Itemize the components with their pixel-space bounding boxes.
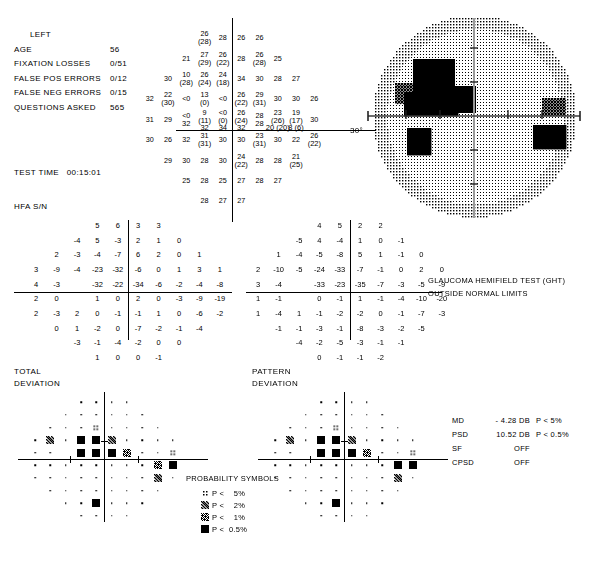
threshold-value: -1: [398, 338, 405, 347]
grid-value-cell: -34: [133, 281, 144, 289]
horizontal-axis: [258, 459, 448, 460]
probability-plot-point: [65, 502, 67, 504]
symbol-normal-dot: [50, 427, 52, 429]
grid-value-cell: -1: [398, 251, 405, 259]
grid-value-cell: 0: [379, 237, 383, 245]
grid-value-cell: 1: [157, 310, 161, 318]
probability-plot-point: [290, 452, 292, 454]
symbol-normal-dot: [382, 452, 384, 454]
symbol-normal-dot: [366, 414, 368, 416]
grid-value-cell: -8: [336, 251, 343, 259]
symbol-normal-dot: [320, 427, 322, 429]
threshold-value: -34: [133, 280, 144, 289]
grid-value-cell: 1: [95, 295, 99, 303]
threshold-value: 2: [157, 250, 161, 259]
grid-value-cell: 26: [310, 95, 318, 103]
threshold-value: -1: [398, 236, 405, 245]
threshold-value: 28: [255, 156, 263, 165]
vertical-axis: [344, 392, 345, 522]
probability-plot-point: [348, 449, 356, 457]
threshold-value: -8: [216, 280, 223, 289]
symbol-normal-dot: [290, 465, 292, 467]
grid-value-cell: -4: [296, 251, 303, 259]
probability-plot-point: [126, 414, 128, 416]
threshold-value: 1: [95, 353, 99, 362]
threshold-value: -7: [377, 280, 384, 289]
grid-value-cell: 23(31): [253, 132, 266, 148]
grid-value-cell: 28: [201, 177, 209, 185]
global-index-row: MD- 4.28 DBP < 5%: [452, 414, 588, 428]
grid-value-cell: 28: [255, 177, 263, 185]
probability-plot-point: [65, 439, 67, 441]
grid-value-cell: 3: [197, 266, 201, 274]
grid-value-cell: 30: [164, 75, 172, 83]
probability-plot-point: [80, 402, 82, 404]
probability-plot-point: [366, 502, 368, 504]
symbol-normal-dot: [65, 427, 67, 429]
grid-value-cell: 0: [177, 251, 181, 259]
threshold-value: -33: [334, 265, 345, 274]
grid-value-cell: 0: [157, 266, 161, 274]
grid-value-cell: 0: [116, 325, 120, 333]
grid-value-cell: 5: [358, 251, 362, 259]
threshold-value: -1: [377, 265, 384, 274]
symbol-normal-dot: [34, 439, 36, 441]
grid-value-cell: 1: [218, 266, 222, 274]
symbol-normal-dot: [142, 502, 144, 504]
probability-plot-point: [320, 515, 322, 517]
grid-value-cell: 30: [274, 95, 282, 103]
threshold-value: 27: [292, 74, 300, 83]
retest-value: (0): [200, 100, 209, 108]
probability-plot-point: [34, 477, 36, 479]
probability-plot-point: [80, 427, 82, 429]
threshold-value: 28: [201, 156, 209, 165]
probability-plot-point: [111, 414, 113, 416]
grid-value-cell: -23: [334, 281, 345, 289]
probability-plot-point: [366, 477, 368, 479]
grid-value-cell: 1: [379, 251, 383, 259]
threshold-value: 30: [310, 115, 318, 124]
symbol-normal-dot: [320, 414, 322, 416]
threshold-value: 0: [399, 265, 403, 274]
threshold-value: -24: [314, 265, 325, 274]
symbol-p-lt-0p5: [92, 436, 100, 444]
legend-item: P < 0.5%: [198, 523, 279, 535]
grid-value-cell: 2: [157, 251, 161, 259]
threshold-value: -9: [53, 265, 60, 274]
probability-plot-point: [50, 452, 52, 454]
symbol-normal-dot: [172, 477, 174, 479]
grid-value-cell: -7: [377, 281, 384, 289]
grid-value-cell: 5: [338, 222, 342, 230]
global-index-row: SFOFF: [452, 442, 588, 456]
grid-value-cell: -1: [275, 295, 282, 303]
probability-plot-point: [286, 436, 294, 444]
grid-value-cell: 1: [256, 295, 260, 303]
symbol-normal-dot: [80, 502, 82, 504]
probability-plot-point: [169, 461, 177, 469]
symbol-normal-dot: [126, 515, 128, 517]
symbol-p-lt-0p5: [201, 525, 209, 533]
threshold-value: 1: [218, 265, 222, 274]
grid-value-cell: 21: [182, 55, 190, 63]
grid-value-cell: 29: [164, 116, 172, 124]
grid-value-cell: -1: [316, 310, 323, 318]
threshold-value: 2: [34, 309, 38, 318]
threshold-value: 2: [256, 265, 260, 274]
probability-plot-point: [154, 461, 162, 469]
threshold-numeric-map: 26(28)2826262127(29)26(22)2826(28)253010…: [176, 14, 376, 222]
probability-plot-point: [96, 414, 98, 416]
symbol-normal-dot: [126, 439, 128, 441]
grid-value-cell: 28: [274, 157, 282, 165]
grid-value-cell: 26: [237, 34, 245, 42]
probability-plot-point: [320, 490, 322, 492]
threshold-value: -3: [114, 236, 121, 245]
threshold-value: 0: [55, 294, 59, 303]
probability-plot-point: [142, 414, 144, 416]
legend-symbol: [198, 501, 212, 509]
threshold-value: 30: [219, 156, 227, 165]
threshold-value: -6: [155, 280, 162, 289]
threshold-value: -2: [398, 324, 405, 333]
threshold-value: -3: [438, 309, 445, 318]
legend-title: PROBABILITY SYMBOLS: [186, 474, 279, 483]
threshold-value: 27: [274, 176, 282, 185]
